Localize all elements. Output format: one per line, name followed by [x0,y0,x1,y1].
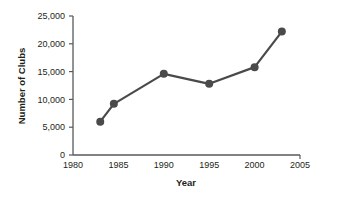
data-point [278,28,286,36]
data-point [160,70,168,78]
y-tick-label: 10,000 [37,95,65,105]
x-tick-label: 1985 [108,160,128,170]
x-tick-label: 1995 [199,160,219,170]
y-axis-title: Number of Clubs [16,48,27,125]
y-tick-label: 5,000 [42,122,65,132]
data-point [205,80,213,88]
x-tick-label: 2005 [290,160,310,170]
y-tick-label: 20,000 [37,39,65,49]
chart-page: 05,00010,00015,00020,00025,000 198019851… [0,0,339,200]
data-point [96,118,104,126]
data-point [251,63,259,71]
y-tick-label: 0 [60,150,65,160]
x-tick-label: 2000 [245,160,265,170]
x-tick-label: 1990 [154,160,174,170]
y-tick-label: 25,000 [37,11,65,21]
line-chart: 05,00010,00015,00020,00025,000 198019851… [0,0,339,200]
y-tick-label: 15,000 [37,67,65,77]
x-tick-label: 1980 [63,160,83,170]
x-axis-title: Year [176,177,196,188]
data-point [110,100,118,108]
